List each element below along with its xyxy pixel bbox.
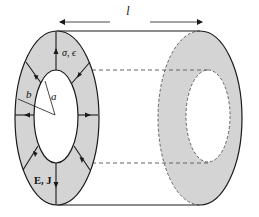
inner-radius-label: a: [51, 90, 57, 102]
length-dimension: l: [60, 4, 202, 22]
front-annulus-fill: [15, 31, 99, 205]
coaxial-cylinder-diagram: l: [0, 0, 259, 217]
front-annulus: σ, ϵ b a E, J: [15, 31, 99, 205]
length-label: l: [126, 4, 130, 18]
back-inner-edge-dashed: [186, 70, 230, 162]
material-label: σ, ϵ: [62, 47, 77, 58]
fields-label: E, J: [34, 175, 52, 186]
outer-radius-label: b: [26, 88, 32, 100]
back-annulus: [158, 31, 242, 205]
